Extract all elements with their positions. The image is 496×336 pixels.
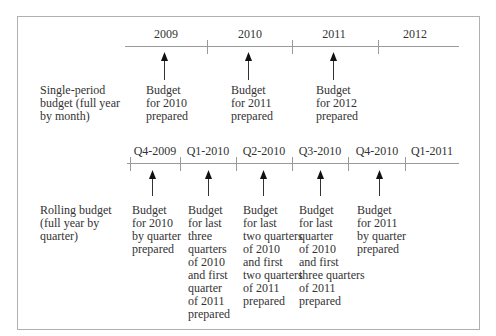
period-label-q3-2010: Q3-2010 — [299, 145, 342, 158]
arrow-up-icon — [329, 52, 338, 80]
arrow-up-icon — [375, 170, 384, 196]
timeline-tick — [292, 40, 293, 54]
period-label-q4-2010: Q4-2010 — [356, 145, 399, 158]
timeline-tick — [405, 157, 406, 171]
event-text: Budget for last two quarters of 2010 and… — [243, 204, 303, 308]
period-label-2011: 2011 — [322, 28, 346, 41]
period-label-q1-2010: Q1-2010 — [187, 145, 230, 158]
rolling-row-label: Rolling budget (full year by quarter) — [40, 204, 112, 243]
timeline-tick — [130, 157, 131, 171]
arrow-up-icon — [160, 52, 169, 80]
period-label-q1-2011: Q1-2011 — [411, 145, 453, 158]
event-text: Budget for last quarter of 2010 and firs… — [299, 204, 365, 308]
arrow-up-icon — [316, 170, 325, 196]
period-label-q2-2010: Q2-2010 — [243, 145, 286, 158]
period-label-q4-2009: Q4-2009 — [134, 145, 177, 158]
event-text: Budget for 2011 by quarter prepared — [357, 204, 406, 256]
timeline-tick — [207, 40, 208, 54]
event-text: Budget for 2010 prepared — [146, 84, 188, 123]
event-text: Budget for last three quarters of 2010 a… — [188, 204, 230, 321]
arrow-up-icon — [259, 170, 268, 196]
timeline-tick — [378, 40, 379, 54]
arrow-up-icon — [244, 52, 253, 80]
period-label-2012: 2012 — [403, 28, 427, 41]
timeline-tick — [180, 157, 181, 171]
single-period-row-label: Single-period budget (full year by month… — [40, 84, 120, 123]
period-label-2010: 2010 — [238, 28, 262, 41]
event-text: Budget for 2011 prepared — [231, 84, 273, 123]
event-text: Budget for 2010 by quarter prepared — [132, 204, 181, 256]
timeline-tick — [292, 157, 293, 171]
timeline-tick — [236, 157, 237, 171]
arrow-up-icon — [148, 170, 157, 196]
rolling-timeline — [127, 163, 459, 164]
arrow-up-icon — [204, 170, 213, 196]
event-text: Budget for 2012 prepared — [316, 84, 358, 123]
timeline-tick — [348, 157, 349, 171]
period-label-2009: 2009 — [154, 28, 178, 41]
